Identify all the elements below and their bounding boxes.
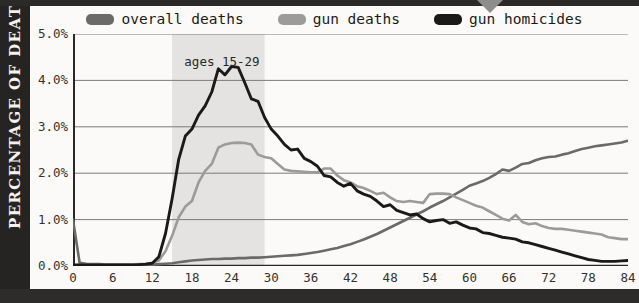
frame-bottom-bar — [0, 289, 639, 303]
y-axis-tick-label: 3.0% — [38, 119, 68, 134]
legend-swatch-icon — [278, 14, 306, 25]
legend-item-overall-deaths[interactable]: overall deaths — [86, 11, 243, 27]
age-band-annotation: ages 15-29 — [184, 54, 259, 69]
x-axis-tick-label: 24 — [219, 270, 245, 285]
chart-container: PERCENTAGE OF DEATHS overall deaths gun … — [0, 0, 639, 303]
chevron-down-icon — [477, 0, 503, 13]
legend-label: overall deaths — [121, 11, 243, 27]
x-axis-tick-label: 30 — [258, 270, 284, 285]
x-axis-tick-label: 66 — [496, 270, 522, 285]
x-axis-tick-label: 42 — [338, 270, 364, 285]
plot-area — [73, 34, 628, 266]
x-axis-tick-label: 12 — [139, 270, 165, 285]
x-axis-tick-label: 36 — [298, 270, 324, 285]
legend-item-gun-deaths[interactable]: gun deaths — [278, 11, 400, 27]
x-axis-tick-label: 78 — [575, 270, 601, 285]
y-axis-tick-label: 1.0% — [38, 212, 68, 227]
y-axis-tick-label: 4.0% — [38, 72, 68, 87]
y-axis-tick-label: 2.0% — [38, 165, 68, 180]
x-axis-tick-label: 6 — [100, 270, 126, 285]
y-axis-title: PERCENTAGE OF DEATHS — [0, 0, 30, 234]
x-axis-tick-label: 84 — [615, 270, 639, 285]
x-axis-tick-label: 54 — [417, 270, 443, 285]
legend-swatch-icon — [434, 14, 462, 25]
chart-legend: overall deaths gun deaths gun homicides — [30, 6, 639, 32]
x-axis-tick-label: 48 — [377, 270, 403, 285]
frame-top-bar — [0, 0, 639, 6]
x-axis-tick-label: 60 — [456, 270, 482, 285]
legend-swatch-icon — [86, 14, 114, 25]
y-axis-tick-labels: 0.0%1.0%2.0%3.0%4.0%5.0% — [30, 34, 68, 266]
legend-label: gun deaths — [313, 11, 400, 27]
x-axis-tick-label: 72 — [536, 270, 562, 285]
series-line-gun-homicides — [73, 66, 628, 265]
legend-item-gun-homicides[interactable]: gun homicides — [434, 11, 583, 27]
x-axis-tick-label: 18 — [179, 270, 205, 285]
y-axis-title-band: PERCENTAGE OF DEATHS — [0, 0, 30, 293]
x-axis-tick-labels: 0612182430364248546066727884 — [73, 270, 628, 288]
plot-svg — [73, 34, 628, 266]
y-axis-tick-label: 5.0% — [38, 26, 68, 41]
x-axis-tick-label: 0 — [60, 270, 86, 285]
legend-label: gun homicides — [469, 11, 583, 27]
